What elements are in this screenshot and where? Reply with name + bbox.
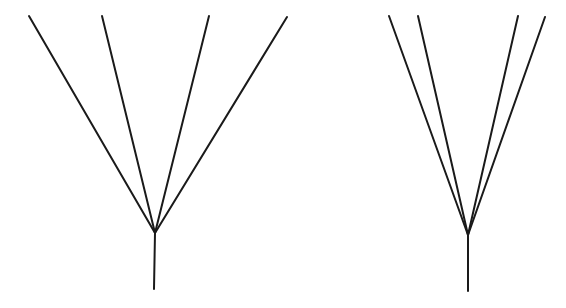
branch-line [389, 16, 468, 235]
branch-line [155, 17, 287, 233]
stem-line [154, 233, 155, 289]
branch-line [418, 16, 468, 235]
branch-line [155, 16, 209, 233]
left-fan [29, 16, 287, 289]
diagram-canvas [0, 0, 566, 308]
branch-line [29, 16, 155, 233]
right-fan [389, 16, 545, 291]
branch-line [468, 16, 518, 235]
branch-line [102, 16, 155, 233]
branch-line [468, 17, 545, 235]
